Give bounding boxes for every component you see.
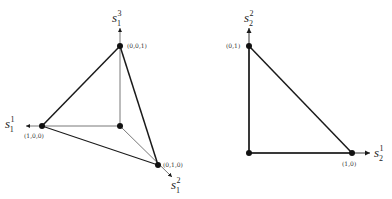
origin-right bbox=[246, 150, 252, 156]
label-vertex-100: (1,0,0) bbox=[24, 132, 44, 139]
label-vertex-010: (0,1,0) bbox=[163, 161, 183, 168]
simplex-diagrams: (0,0,1) (1,0,0) (0,1,0) s31 s11 s21 (0,1… bbox=[0, 0, 392, 199]
edge-left-bottomright bbox=[42, 126, 158, 165]
axis-label-s1-1: s11 bbox=[5, 115, 15, 134]
vertex-001 bbox=[117, 43, 123, 49]
axis-label-s2-2: s22 bbox=[244, 9, 254, 28]
axis-label-s2-1: s12 bbox=[374, 144, 384, 163]
vertex-01 bbox=[246, 43, 252, 49]
axis-label-s1-3: s31 bbox=[112, 9, 122, 28]
axis-label-s1-2: s21 bbox=[171, 176, 181, 195]
label-vertex-10: (1,0) bbox=[342, 160, 356, 167]
right-simplex-diagram: (0,1) (1,0) s22 s12 bbox=[226, 9, 384, 167]
axis-s1-2 bbox=[120, 126, 172, 177]
label-vertex-001: (0,0,1) bbox=[127, 42, 147, 49]
left-simplex-diagram: (0,0,1) (1,0,0) (0,1,0) s31 s11 s21 bbox=[5, 9, 183, 195]
vertex-10 bbox=[349, 150, 355, 156]
label-vertex-01: (0,1) bbox=[226, 42, 240, 49]
origin-left bbox=[117, 123, 123, 129]
edge-hypotenuse bbox=[249, 46, 352, 153]
vertex-100 bbox=[39, 123, 45, 129]
vertex-010 bbox=[155, 162, 161, 168]
edge-top-bottomright bbox=[120, 46, 158, 165]
edge-top-left bbox=[42, 46, 120, 126]
